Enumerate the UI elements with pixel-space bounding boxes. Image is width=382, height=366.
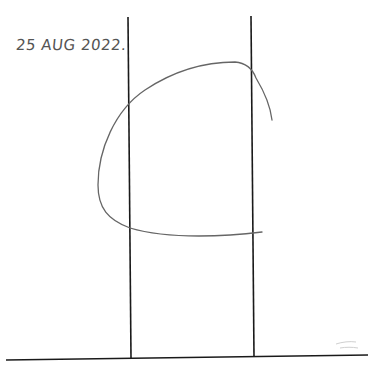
date-text: 25 AUG 2022 <box>15 36 122 54</box>
baseline-line <box>6 355 368 360</box>
right-vertical-line <box>251 16 254 357</box>
closed-curve <box>98 62 272 236</box>
left-vertical-line <box>128 17 131 358</box>
date-annotation: 25 AUG 2022. <box>15 36 127 54</box>
sketch-canvas <box>0 0 382 366</box>
faint-mark <box>336 342 358 348</box>
